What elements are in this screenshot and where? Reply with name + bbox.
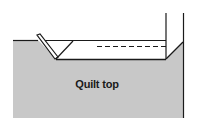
quilt-diagram [0, 0, 197, 122]
v-edge [56, 41, 73, 59]
quilt-top-label: Quilt top [62, 78, 132, 90]
